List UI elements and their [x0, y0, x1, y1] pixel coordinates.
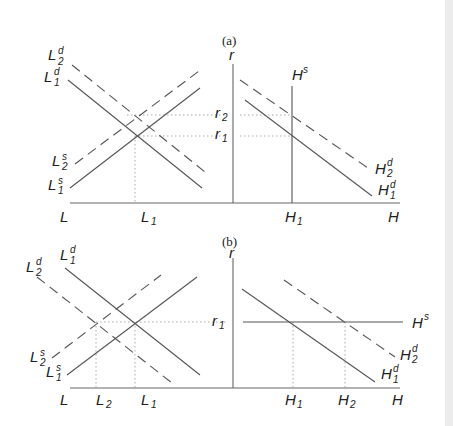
- svg-text:1: 1: [390, 190, 396, 201]
- panel-b-Hs-label: H s: [412, 311, 429, 331]
- svg-text:d: d: [390, 179, 396, 190]
- svg-text:H: H: [400, 346, 411, 363]
- svg-text:1: 1: [70, 255, 76, 266]
- svg-text:2: 2: [105, 399, 112, 410]
- panel-b-H-axis-label: H: [392, 391, 403, 408]
- svg-text:L: L: [30, 348, 38, 365]
- panel-a-L-axis-label: L: [60, 208, 68, 225]
- svg-text:1: 1: [58, 185, 64, 196]
- svg-text:2: 2: [221, 112, 228, 123]
- panel-a-H1-tick: H 1: [285, 208, 303, 227]
- panel-a-L2d-label: L d 2: [48, 45, 64, 67]
- svg-text:1: 1: [151, 216, 157, 227]
- panel-b-H1-tick: H 1: [285, 391, 303, 410]
- svg-text:d: d: [54, 66, 60, 77]
- panel-a-L2s-curve: [75, 68, 203, 164]
- panel-b-r1-tick: r 1: [212, 312, 225, 331]
- panel-a-H1d-curve: [245, 100, 372, 196]
- panel-b-L2-tick: L 2: [96, 391, 112, 410]
- panel-b-L2d-label: L d 2: [26, 256, 42, 278]
- panel-a-r-label: r: [229, 46, 235, 63]
- panel-b: (b) r L d 1 L d 2 L s: [26, 234, 429, 410]
- svg-text:2: 2: [411, 354, 418, 365]
- panel-b-H2-tick: H 2: [338, 391, 356, 410]
- loanable-funds-diagram: (a) r L d 2 L d 1 L s: [0, 0, 453, 426]
- panel-a-r1-tick: r 1: [215, 125, 228, 144]
- panel-a-L1-tick: L 1: [141, 208, 157, 227]
- svg-text:d: d: [70, 244, 76, 255]
- panel-a-L2s-label: L s 2: [52, 151, 68, 172]
- svg-text:L: L: [44, 68, 52, 85]
- panel-b-L-axis-label: L: [60, 391, 68, 408]
- svg-text:H: H: [338, 391, 349, 408]
- panel-b-L2s-label: L s 2: [30, 347, 46, 368]
- svg-text:L: L: [96, 391, 104, 408]
- panel-b-L1d-label: L d 1: [60, 244, 76, 266]
- panel-b-L1s-label: L s 1: [46, 362, 62, 383]
- panel-a-r2-tick: r 2: [215, 104, 228, 123]
- panel-b-L1-tick: L 1: [141, 391, 157, 410]
- panel-a-H2d-curve: [240, 80, 368, 168]
- svg-text:H: H: [412, 314, 423, 331]
- svg-text:H: H: [285, 391, 296, 408]
- panel-a-L1d-curve: [68, 80, 202, 188]
- svg-text:2: 2: [35, 267, 42, 278]
- svg-text:1: 1: [297, 216, 303, 227]
- svg-text:1: 1: [54, 77, 60, 88]
- panel-a-H2d-label: H d 2: [375, 157, 393, 179]
- svg-text:2: 2: [61, 161, 68, 172]
- svg-text:d: d: [36, 256, 42, 267]
- svg-text:s: s: [424, 311, 429, 322]
- panel-b-L1d-curve: [65, 268, 200, 375]
- panel-a-H1d-label: H d 1: [378, 179, 396, 201]
- svg-text:1: 1: [56, 372, 62, 383]
- svg-text:1: 1: [219, 320, 225, 331]
- svg-text:d: d: [412, 343, 418, 354]
- svg-text:d: d: [58, 45, 64, 56]
- panel-a-Hs-label: H s: [292, 64, 308, 83]
- svg-text:d: d: [393, 363, 399, 374]
- svg-text:r: r: [212, 312, 218, 329]
- svg-text:L: L: [48, 46, 56, 63]
- panel-a-H-axis-label: H: [388, 208, 399, 225]
- svg-text:2: 2: [39, 357, 46, 368]
- panel-a: (a) r L d 2 L d 1 L s: [44, 33, 400, 227]
- svg-text:L: L: [60, 246, 68, 263]
- svg-text:r: r: [215, 125, 221, 142]
- svg-text:L: L: [141, 391, 149, 408]
- svg-text:s: s: [303, 64, 308, 75]
- svg-text:L: L: [46, 363, 54, 380]
- svg-text:H: H: [285, 208, 296, 225]
- svg-text:H: H: [381, 365, 392, 382]
- svg-text:2: 2: [386, 168, 393, 179]
- svg-text:1: 1: [393, 374, 399, 385]
- svg-text:d: d: [387, 157, 393, 168]
- svg-text:1: 1: [151, 399, 157, 410]
- svg-text:H: H: [378, 181, 389, 198]
- panel-b-L1s-curve: [67, 277, 197, 375]
- svg-text:2: 2: [349, 399, 356, 410]
- svg-text:1: 1: [222, 133, 228, 144]
- svg-text:L: L: [26, 258, 34, 275]
- panel-b-H1d-curve: [242, 289, 375, 382]
- panel-b-H2d-label: H d 2: [400, 343, 418, 365]
- svg-text:H: H: [375, 160, 386, 177]
- panel-a-L1s-label: L s 1: [48, 175, 64, 196]
- svg-text:H: H: [292, 66, 303, 83]
- panel-a-L1d-label: L d 1: [44, 66, 60, 88]
- svg-text:L: L: [52, 152, 60, 169]
- panel-b-H1d-label: H d 1: [381, 363, 399, 385]
- panel-b-H2d-curve: [284, 280, 395, 357]
- svg-text:r: r: [215, 104, 221, 121]
- svg-text:L: L: [48, 176, 56, 193]
- svg-text:L: L: [141, 208, 149, 225]
- svg-text:1: 1: [297, 399, 303, 410]
